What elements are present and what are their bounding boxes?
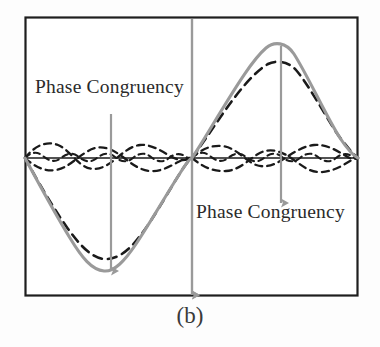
figure-caption: (b): [0, 303, 380, 329]
phase-congruency-label-top: Phase Congruency: [35, 76, 184, 98]
phase-congruency-label-bottom: Phase Congruency: [196, 201, 345, 223]
phase-congruency-plot: [0, 0, 380, 347]
phase-congruency-figure: Phase Congruency Phase Congruency (b): [0, 0, 380, 347]
